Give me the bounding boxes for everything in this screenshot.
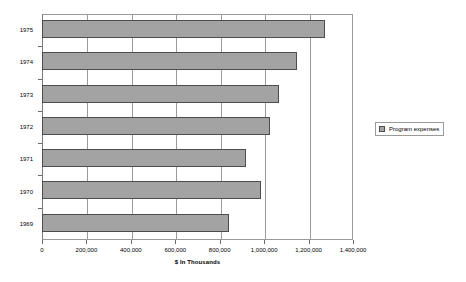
y-tick-label: 1973 bbox=[20, 91, 33, 99]
x-tick-label: 1,400,000 bbox=[340, 246, 367, 254]
x-axis-title: $ In Thousands bbox=[42, 259, 353, 265]
bar[interactable] bbox=[42, 117, 270, 135]
x-tick-mark bbox=[131, 240, 132, 244]
y-tick-label: 1974 bbox=[20, 58, 33, 66]
bar[interactable] bbox=[42, 214, 229, 232]
x-tick-mark bbox=[86, 240, 87, 244]
x-tick-label: 400,000 bbox=[120, 246, 142, 254]
bar[interactable] bbox=[42, 149, 246, 167]
x-tick-mark bbox=[175, 240, 176, 244]
x-tick-label: 800,000 bbox=[209, 246, 231, 254]
bars-layer bbox=[42, 14, 353, 240]
legend-swatch-icon bbox=[379, 126, 385, 132]
x-tick-label: 200,000 bbox=[76, 246, 98, 254]
y-tick-mark bbox=[38, 208, 42, 209]
legend[interactable]: Program expenses bbox=[375, 122, 444, 136]
y-tick-label: 1975 bbox=[20, 26, 33, 34]
y-tick-label: 1971 bbox=[20, 155, 33, 163]
legend-item-label: Program expenses bbox=[389, 125, 439, 133]
y-tick-mark bbox=[38, 79, 42, 80]
x-tick-label: 0 bbox=[40, 246, 43, 254]
x-tick-mark bbox=[309, 240, 310, 244]
bar[interactable] bbox=[42, 181, 261, 199]
y-tick-mark bbox=[38, 111, 42, 112]
x-tick-mark bbox=[42, 240, 43, 244]
y-tick-mark bbox=[38, 143, 42, 144]
x-tick-label: 1,200,000 bbox=[295, 246, 322, 254]
x-tick-label: 600,000 bbox=[164, 246, 186, 254]
x-tick-mark bbox=[264, 240, 265, 244]
bar[interactable] bbox=[42, 52, 297, 70]
bar[interactable] bbox=[42, 20, 325, 38]
y-tick-label: 1972 bbox=[20, 123, 33, 131]
x-tick-label: 1,000,000 bbox=[251, 246, 278, 254]
y-tick-label: 1969 bbox=[20, 220, 33, 228]
y-tick-mark bbox=[38, 46, 42, 47]
bar[interactable] bbox=[42, 85, 279, 103]
y-tick-mark bbox=[38, 175, 42, 176]
y-tick-label: 1970 bbox=[20, 188, 33, 196]
bar-chart: 1969197019711972197319741975 0200,000400… bbox=[0, 0, 466, 282]
y-axis: 1969197019711972197319741975 bbox=[0, 14, 38, 240]
x-tick-mark bbox=[353, 240, 354, 244]
x-tick-mark bbox=[220, 240, 221, 244]
